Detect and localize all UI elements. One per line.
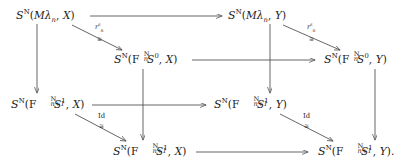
edge-label-diag-top-left-main: rεn [95, 23, 104, 33]
node-top-right-script: S [228, 9, 236, 22]
node-bottom-right-arg2: Y [380, 145, 387, 157]
node-top-left-arg1-prefix: M [34, 9, 45, 21]
node-lower-left-comma: , [66, 98, 69, 110]
node-lower-left-functor-letter: F [29, 98, 36, 110]
node-mid-left-close: ) [173, 53, 177, 65]
node-lower-right: SN(FNn+1n+1 S1, Y) [214, 98, 287, 110]
node-bottom-right-functor: FNn+1n+1 [336, 146, 358, 157]
node-top-left-close: ) [71, 9, 75, 21]
edge-label-diag-top-right-iso: ≅ [307, 36, 316, 42]
node-bottom-right-comma: , [373, 145, 376, 157]
node-lower-left-script: S [11, 98, 19, 111]
node-bottom-right-functor-letter: F [336, 145, 343, 157]
node-bottom-left: SN(FNn+1n+1 S1, X) [113, 145, 186, 157]
edge-label-diag-bottom-right: Id ≅ [303, 113, 310, 129]
node-top-right-comma: , [268, 9, 271, 21]
edge-label-diag-bottom-right-main: Id [303, 113, 310, 120]
node-mid-right-functor: FNnn [342, 54, 354, 65]
edge-label-diag-bottom-left-main: Id [98, 113, 105, 120]
node-lower-right-functor-letter: F [232, 98, 239, 110]
node-lower-left: SN(FNn+1n+1 S1, X) [11, 98, 84, 110]
edge-label-diag-bottom-left-iso: ≅ [98, 123, 105, 129]
node-top-left-comma: , [56, 9, 59, 21]
node-bottom-left-comma: , [168, 145, 171, 157]
node-bottom-right-functor-sub: n+1 [358, 148, 372, 155]
arrow-layer [0, 0, 411, 167]
node-top-left: SN(Mλn, X) [16, 9, 75, 23]
edge-label-diag-top-left-iso: ≅ [95, 36, 104, 42]
node-lower-left-functor: FNn+1n+1 [29, 99, 51, 110]
node-mid-left-functor: FNnn [132, 54, 144, 65]
node-mid-right-arg2: Y [376, 53, 383, 65]
node-top-right-lambda: λ [257, 9, 264, 21]
node-bottom-left-functor-letter: F [131, 145, 138, 157]
node-top-left-script: S [16, 9, 24, 22]
node-mid-right-script: S [324, 53, 332, 66]
node-mid-left-functor-letter: F [132, 53, 139, 65]
node-mid-left: SN(FNnn S0, X) [114, 53, 178, 65]
node-lower-left-close: ) [80, 98, 84, 110]
node-mid-right-functor-sub: n [354, 56, 358, 63]
node-mid-right-close: ) [383, 53, 387, 65]
node-bottom-right-period: . [391, 145, 394, 157]
edge-label-diag-top-left: rεn ≅ [95, 23, 104, 42]
node-bottom-left-close: ) [182, 145, 186, 157]
node-lower-right-functor-sub: n+1 [254, 101, 268, 108]
edge-label-diag-top-left-sub: n [101, 28, 104, 33]
edge-label-diag-bottom-left: Id ≅ [98, 113, 105, 129]
node-top-right-arg2: Y [275, 9, 282, 21]
node-bottom-right: SN(FNn+1n+1 S1, Y). [318, 145, 394, 157]
node-bottom-left-script: S [113, 145, 121, 158]
edge-label-diag-top-right: rεn ≅ [307, 23, 316, 42]
node-bottom-left-functor-sub: n+1 [153, 148, 167, 155]
node-top-right-arg1-prefix: M [246, 9, 257, 21]
edge-label-diag-top-right-sub: n [313, 28, 316, 33]
node-mid-right: SN(FNnn S0, Y) [324, 53, 387, 65]
node-lower-left-functor-sub: n+1 [51, 101, 65, 108]
edge-label-diag-top-right-main: rεn [307, 23, 316, 33]
node-lower-right-functor: FNn+1n+1 [232, 99, 254, 110]
node-mid-left-functor-sub: n [144, 56, 148, 63]
node-mid-right-functor-letter: F [342, 53, 349, 65]
node-lower-right-arg2: Y [276, 98, 283, 110]
node-bottom-left-functor: FNn+1n+1 [131, 146, 153, 157]
node-top-left-arg2: X [63, 9, 71, 21]
node-lower-right-comma: , [269, 98, 272, 110]
node-mid-left-comma: , [159, 53, 162, 65]
node-lower-right-script: S [214, 98, 222, 111]
node-lower-right-close: ) [283, 98, 287, 110]
edge-label-diag-top-right-sup: ε [310, 22, 312, 27]
edge-label-diag-bottom-right-iso: ≅ [303, 123, 310, 129]
node-mid-right-comma: , [369, 53, 372, 65]
node-top-left-lambda: λ [45, 9, 52, 21]
edge-label-diag-top-left-sup: ε [98, 22, 100, 27]
node-top-right: SN(Mλn, Y) [228, 9, 286, 23]
node-top-right-close: ) [282, 9, 286, 21]
node-bottom-right-script: S [318, 145, 326, 158]
commutative-diagram: SN(Mλn, X) SN(Mλn, Y) SN(FNnn S0, X) SN(… [0, 0, 411, 167]
node-mid-left-script: S [114, 53, 122, 66]
